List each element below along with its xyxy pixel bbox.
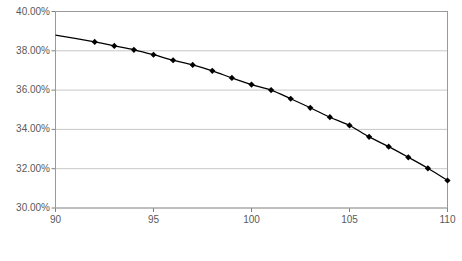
x-axis-tick-label: 100 xyxy=(232,215,272,225)
x-axis-labels: 9095100105110 xyxy=(0,0,462,261)
chart-container: 30.00%32.00%34.00%36.00%38.00%40.00% 909… xyxy=(0,0,462,261)
x-axis-tick-label: 95 xyxy=(134,215,174,225)
x-axis-tick-label: 90 xyxy=(36,215,76,225)
x-axis-tick-label: 105 xyxy=(330,215,370,225)
x-axis-tick-label: 110 xyxy=(428,215,462,225)
